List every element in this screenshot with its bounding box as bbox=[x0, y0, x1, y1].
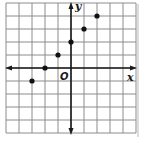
data-point bbox=[42, 65, 47, 70]
axes bbox=[5, 2, 137, 135]
data-point bbox=[68, 39, 73, 44]
x-axis-label: x bbox=[126, 71, 134, 84]
data-point bbox=[94, 13, 99, 18]
data-point bbox=[55, 52, 60, 57]
grid-shadow bbox=[137, 4, 139, 137]
y-axis-label: y bbox=[74, 0, 83, 13]
origin-label: O bbox=[60, 71, 69, 82]
coordinate-plane-svg: x y O bbox=[0, 0, 148, 143]
data-point bbox=[81, 26, 86, 31]
y-axis-down-arrow-icon bbox=[69, 128, 74, 135]
coordinate-plane: x y O bbox=[0, 0, 148, 143]
data-point bbox=[29, 78, 34, 83]
